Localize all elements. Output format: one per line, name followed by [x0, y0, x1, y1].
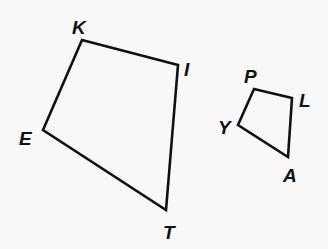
- figure-svg: K I T E P L A Y: [0, 0, 328, 249]
- vertex-label-k: K: [72, 17, 87, 38]
- vertex-label-a: A: [282, 165, 297, 186]
- vertex-label-t: T: [163, 222, 176, 243]
- vertex-label-i: I: [184, 59, 190, 80]
- vertex-label-p: P: [244, 66, 257, 87]
- vertex-label-l: L: [299, 90, 311, 111]
- quadrilateral-kite: [43, 40, 178, 210]
- vertex-label-y: Y: [218, 117, 233, 138]
- geometry-figure: K I T E P L A Y: [0, 0, 328, 249]
- quadrilateral-play: [238, 89, 292, 157]
- vertex-label-e: E: [19, 128, 33, 149]
